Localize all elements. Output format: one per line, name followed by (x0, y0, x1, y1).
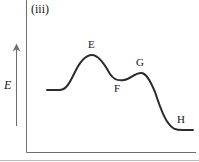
curve-point-label-e: E (88, 39, 95, 50)
curve-point-label-h: H (177, 114, 185, 125)
y-axis-label: E (4, 79, 11, 91)
bottom-divider (0, 160, 199, 161)
up-arrow-icon (13, 44, 21, 127)
panel-label: (iii) (31, 3, 49, 15)
curve-point-label-g: G (136, 57, 144, 68)
energy-profile-figure: (iii) E E F G H (0, 0, 199, 162)
plot-canvas (0, 0, 199, 162)
curve-point-label-f: F (114, 83, 120, 94)
